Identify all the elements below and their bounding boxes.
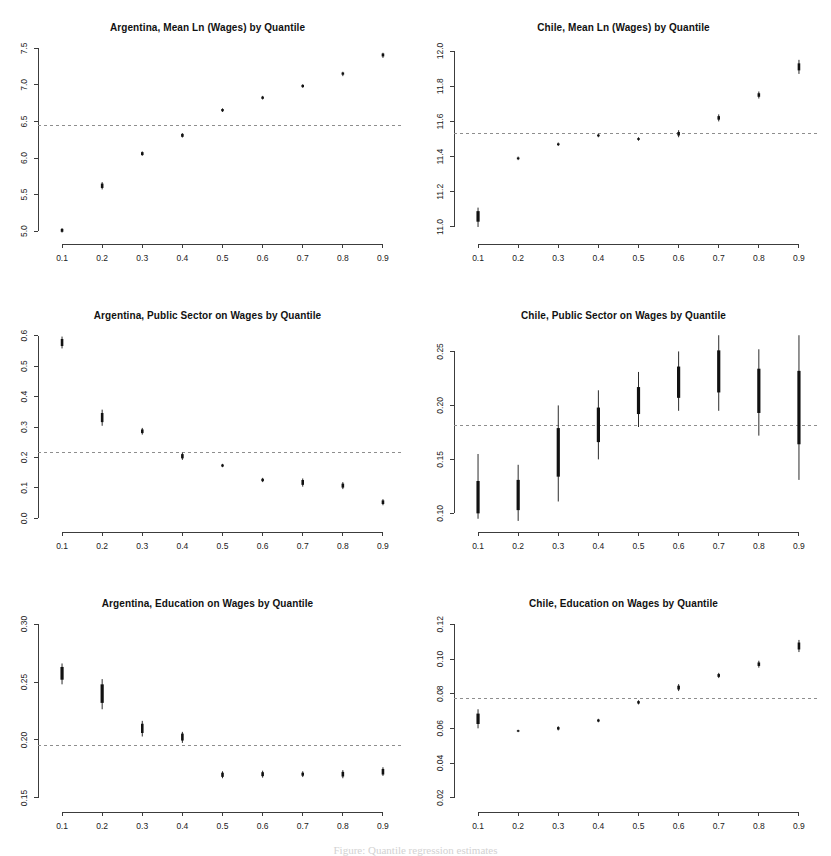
x-tick-label: 0.5 — [633, 541, 645, 551]
y-tick-label: 0.4 — [19, 390, 29, 402]
panel-chile-public-sector: Chile, Public Sector on Wages by Quantil… — [416, 292, 831, 576]
x-tick-label: 0.5 — [217, 253, 229, 263]
x-tick-label: 0.2 — [96, 253, 108, 263]
x-tick-label: 0.7 — [713, 821, 725, 831]
x-tick-label: 0.8 — [753, 821, 765, 831]
plot-area-argentina-mean-wages: 5.05.56.06.57.07.50.10.20.30.40.50.60.70… — [0, 4, 415, 288]
x-tick-label: 0.8 — [337, 541, 349, 551]
y-tick-label: 0.15 — [435, 451, 445, 468]
y-tick-label: 0.2 — [19, 451, 29, 463]
figure-caption: Figure: Quantile regression estimates — [0, 844, 831, 856]
y-tick-label: 11.0 — [435, 219, 445, 235]
plot-area-chile-mean-wages: 11.011.211.411.611.812.00.10.20.30.40.50… — [416, 4, 831, 288]
x-tick-label: 0.6 — [257, 821, 269, 831]
y-tick-label: 0.08 — [435, 685, 445, 702]
x-tick-label: 0.9 — [793, 821, 805, 831]
x-tick-label: 0.2 — [512, 821, 524, 831]
x-tick-label: 0.2 — [96, 541, 108, 551]
x-tick-label: 0.2 — [512, 541, 524, 551]
x-tick-label: 0.1 — [56, 253, 68, 263]
x-tick-label: 0.6 — [257, 253, 269, 263]
y-tick-label: 0.06 — [435, 720, 445, 737]
y-tick-label: 0.6 — [19, 329, 29, 341]
x-tick-label: 0.7 — [297, 541, 309, 551]
x-tick-label: 0.5 — [633, 821, 645, 831]
x-tick-label: 0.8 — [337, 253, 349, 263]
x-tick-label: 0.4 — [592, 821, 604, 831]
y-tick-label: 0.25 — [19, 673, 29, 690]
x-tick-label: 0.4 — [176, 253, 188, 263]
y-tick-label: 0.02 — [435, 789, 445, 806]
x-tick-label: 0.4 — [592, 253, 604, 263]
x-tick-label: 0.4 — [592, 541, 604, 551]
panel-argentina-public-sector: Argentina, Public Sector on Wages by Qua… — [0, 292, 415, 576]
x-tick-label: 0.3 — [136, 821, 148, 831]
x-tick-label: 0.3 — [136, 253, 148, 263]
plot-area-argentina-education: 0.150.200.250.300.10.20.30.40.50.60.70.8… — [0, 580, 415, 856]
x-tick-label: 0.7 — [297, 253, 309, 263]
x-tick-label: 0.6 — [257, 541, 269, 551]
x-tick-label: 0.7 — [297, 821, 309, 831]
y-tick-label: 0.10 — [435, 505, 445, 522]
x-tick-label: 0.1 — [56, 821, 68, 831]
x-tick-label: 0.6 — [673, 541, 685, 551]
x-tick-label: 0.1 — [56, 541, 68, 551]
y-tick-label: 0.0 — [19, 512, 29, 524]
y-tick-label: 6.5 — [19, 115, 29, 127]
x-tick-label: 0.8 — [337, 821, 349, 831]
x-tick-label: 0.5 — [217, 821, 229, 831]
x-tick-label: 0.2 — [512, 253, 524, 263]
y-tick-label: 0.20 — [435, 397, 445, 414]
x-tick-label: 0.7 — [713, 541, 725, 551]
plot-area-argentina-public-sector: 0.00.10.20.30.40.50.60.10.20.30.40.50.60… — [0, 292, 415, 576]
y-tick-label: 0.15 — [19, 789, 29, 806]
x-tick-label: 0.3 — [552, 821, 564, 831]
y-tick-label: 0.25 — [435, 343, 445, 360]
x-tick-label: 0.3 — [552, 253, 564, 263]
x-tick-label: 0.6 — [673, 821, 685, 831]
x-tick-label: 0.5 — [217, 541, 229, 551]
quantile-regression-figure: Argentina, Mean Ln (Wages) by Quantile5.… — [0, 0, 831, 856]
y-tick-label: 0.20 — [19, 731, 29, 748]
y-tick-label: 11.4 — [435, 148, 445, 164]
x-tick-label: 0.5 — [633, 253, 645, 263]
y-tick-label: 0.5 — [19, 360, 29, 372]
y-tick-label: 0.12 — [435, 616, 445, 633]
x-tick-label: 0.4 — [176, 541, 188, 551]
x-tick-label: 0.2 — [96, 821, 108, 831]
y-tick-label: 0.10 — [435, 650, 445, 667]
y-tick-label: 7.0 — [19, 79, 29, 91]
x-tick-label: 0.8 — [753, 541, 765, 551]
x-tick-label: 0.3 — [136, 541, 148, 551]
x-tick-label: 0.4 — [176, 821, 188, 831]
y-tick-label: 12.0 — [435, 42, 445, 59]
plot-area-chile-education: 0.020.040.060.080.100.120.10.20.30.40.50… — [416, 580, 831, 856]
y-tick-label: 7.5 — [19, 42, 29, 54]
y-tick-label: 0.04 — [435, 754, 445, 771]
y-tick-label: 5.0 — [19, 225, 29, 237]
panel-argentina-education: Argentina, Education on Wages by Quantil… — [0, 580, 415, 856]
y-tick-label: 11.2 — [435, 184, 445, 200]
y-tick-label: 0.3 — [19, 421, 29, 433]
y-tick-label: 5.5 — [19, 188, 29, 200]
x-tick-label: 0.9 — [793, 253, 805, 263]
x-tick-label: 0.1 — [472, 541, 484, 551]
x-tick-label: 0.1 — [472, 821, 484, 831]
panel-argentina-mean-wages: Argentina, Mean Ln (Wages) by Quantile5.… — [0, 4, 415, 288]
x-tick-label: 0.9 — [793, 541, 805, 551]
x-tick-label: 0.9 — [377, 541, 389, 551]
plot-area-chile-public-sector: 0.100.150.200.250.10.20.30.40.50.60.70.8… — [416, 292, 831, 576]
y-tick-label: 6.0 — [19, 152, 29, 164]
x-tick-label: 0.9 — [377, 253, 389, 263]
x-tick-label: 0.8 — [753, 253, 765, 263]
y-tick-label: 0.30 — [19, 616, 29, 633]
x-tick-label: 0.1 — [472, 253, 484, 263]
y-tick-label: 11.6 — [435, 113, 445, 129]
y-tick-label: 11.8 — [435, 78, 445, 94]
x-tick-label: 0.7 — [713, 253, 725, 263]
y-tick-label: 0.1 — [19, 482, 29, 494]
x-tick-label: 0.3 — [552, 541, 564, 551]
x-tick-label: 0.9 — [377, 821, 389, 831]
panel-chile-education: Chile, Education on Wages by Quantile0.0… — [416, 580, 831, 856]
x-tick-label: 0.6 — [673, 253, 685, 263]
